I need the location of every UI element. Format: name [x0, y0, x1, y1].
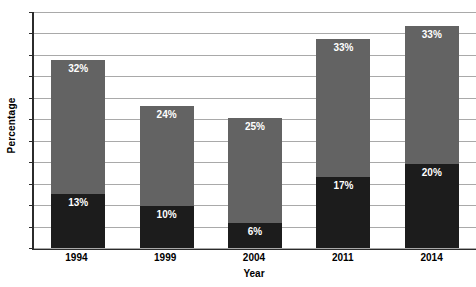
- x-axis-tick-label: 1999: [121, 252, 210, 263]
- x-axis-tick-labels: 1994 1999 2004 2011 2014: [32, 252, 476, 263]
- bar-segment-bottom-label: 20%: [405, 167, 459, 179]
- bar-segment-top-label: 25%: [228, 121, 282, 133]
- bar-segment-bottom-label: 10%: [140, 209, 194, 221]
- bar-segment-top[interactable]: 25%: [228, 118, 282, 223]
- bar-segment-bottom-label: 6%: [228, 226, 282, 238]
- bar-slot-1999: 24% 10%: [122, 12, 210, 248]
- plot-area: 32% 13% 24% 10%: [32, 12, 476, 250]
- bar-segment-top[interactable]: 24%: [140, 106, 194, 206]
- bar-segment-top[interactable]: 33%: [316, 39, 370, 177]
- bar-segment-top-label: 24%: [140, 109, 194, 121]
- x-axis-tick-label: 2004: [210, 252, 299, 263]
- bar-segment-bottom[interactable]: 17%: [316, 177, 370, 248]
- bar-segment-bottom-label: 17%: [316, 180, 370, 192]
- bar-stack[interactable]: 25% 6%: [228, 118, 282, 248]
- bar-stack[interactable]: 24% 10%: [140, 106, 194, 248]
- bar-segment-bottom[interactable]: 10%: [140, 206, 194, 248]
- bar-slot-1994: 32% 13%: [34, 12, 122, 248]
- y-axis-tick: [29, 248, 34, 249]
- bar-group: 32% 13% 24% 10%: [34, 12, 476, 248]
- x-axis-tick-label: 1994: [32, 252, 121, 263]
- x-axis-tick-label: 2014: [387, 252, 476, 263]
- bar-segment-bottom[interactable]: 13%: [51, 194, 105, 248]
- gridline: [34, 248, 476, 249]
- bar-stack[interactable]: 33% 20%: [405, 26, 459, 248]
- bar-slot-2004: 25% 6%: [211, 12, 299, 248]
- bar-segment-top-label: 33%: [405, 29, 459, 41]
- y-axis-title-text: Percentage: [7, 97, 18, 153]
- bar-segment-top[interactable]: 32%: [51, 60, 105, 194]
- stacked-bar-chart: Percentage 32% 13% 24%: [0, 0, 476, 287]
- bar-segment-bottom[interactable]: 20%: [405, 164, 459, 248]
- y-axis-title: Percentage: [2, 0, 22, 250]
- bar-segment-top[interactable]: 33%: [405, 26, 459, 164]
- bar-slot-2014: 33% 20%: [388, 12, 476, 248]
- x-axis-title: Year: [32, 268, 476, 279]
- x-axis-tick-label: 2011: [298, 252, 387, 263]
- bar-segment-bottom[interactable]: 6%: [228, 223, 282, 248]
- bar-segment-top-label: 33%: [316, 42, 370, 54]
- bar-segment-bottom-label: 13%: [51, 197, 105, 209]
- bar-segment-top-label: 32%: [51, 63, 105, 75]
- bar-stack[interactable]: 32% 13%: [51, 60, 105, 248]
- bar-stack[interactable]: 33% 17%: [316, 39, 370, 248]
- bar-slot-2011: 33% 17%: [299, 12, 387, 248]
